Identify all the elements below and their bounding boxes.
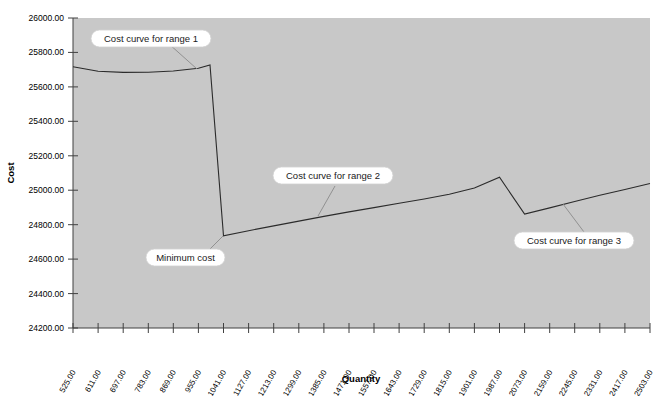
y-tick-label: 25600.00: [29, 82, 65, 92]
y-tick-label: 25400.00: [29, 116, 65, 126]
callout-range1-label: Cost curve for range 1: [104, 33, 198, 44]
callout-range3-label: Cost curve for range 3: [527, 235, 621, 246]
y-tick-label: 25800.00: [29, 47, 65, 57]
x-tick-label: 2159.00: [532, 368, 555, 396]
x-axis-title-text: Quantity: [342, 373, 381, 384]
x-tick-label: 697.00: [108, 368, 128, 394]
x-tick-label: 1385.00: [306, 368, 329, 396]
x-tick-label: 869.00: [158, 368, 178, 394]
x-tick-label: 2417.00: [607, 368, 630, 396]
x-tick-label: 955.00: [183, 368, 203, 394]
callout-range3[interactable]: Cost curve for range 3: [514, 232, 634, 249]
x-tick-label: 1987.00: [482, 368, 505, 396]
x-tick-label: 1213.00: [256, 368, 279, 396]
x-tick-label: 1041.00: [206, 368, 229, 396]
x-tick-label: 1643.00: [382, 368, 405, 396]
y-axis-title-text: Cost: [5, 162, 16, 184]
callout-range2-label: Cost curve for range 2: [286, 170, 380, 181]
x-tick-label: 1815.00: [432, 368, 455, 396]
callout-minimum-label: Minimum cost: [156, 252, 215, 263]
y-tick-label: 24200.00: [29, 323, 65, 333]
y-tick-label: 26000.00: [29, 13, 65, 23]
x-tick-label: 2503.00: [632, 368, 655, 396]
x-tick-label: 1299.00: [281, 368, 304, 396]
y-tick-label: 25200.00: [29, 151, 65, 161]
chart-canvas: 24200.00 24400.00 24600.00 24800.00 2500…: [0, 0, 655, 396]
callout-minimum-cost[interactable]: Minimum cost: [146, 249, 225, 266]
x-tick-label: 2331.00: [582, 368, 605, 396]
x-tick-label: 525.00: [58, 368, 78, 394]
x-tick-label: 2073.00: [507, 368, 530, 396]
y-axis-tick-labels: 24200.00 24400.00 24600.00 24800.00 2500…: [29, 13, 65, 333]
x-tick-label: 611.00: [83, 368, 103, 394]
callout-range1[interactable]: Cost curve for range 1: [91, 30, 211, 47]
y-axis-title: Cost: [5, 162, 16, 184]
x-tick-label: 2245.00: [557, 368, 580, 396]
y-tick-label: 24400.00: [29, 289, 65, 299]
y-tick-label: 24800.00: [29, 220, 65, 230]
x-tick-label: 1127.00: [231, 368, 253, 396]
y-tick-label: 25000.00: [29, 185, 65, 195]
y-tick-label: 24600.00: [29, 254, 65, 264]
cost-quantity-chart: 24200.00 24400.00 24600.00 24800.00 2500…: [0, 0, 655, 396]
callout-range2[interactable]: Cost curve for range 2: [273, 167, 393, 184]
x-tick-label: 783.00: [133, 368, 153, 394]
x-tick-label: 1901.00: [457, 368, 480, 396]
x-tick-label: 1729.00: [407, 368, 430, 396]
